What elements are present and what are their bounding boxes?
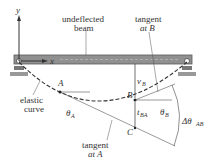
x-axis-label: x [49,56,54,66]
theta-a-subscript: A [70,113,75,119]
tangent-b-label-2: at B [140,23,155,33]
point-b-label: B [127,90,133,100]
delta-theta-arc [172,85,180,146]
point-c-marker [134,127,136,129]
tangent-a-label-2: at A [88,149,103,159]
theta-b-subscript: B [165,112,169,118]
y-axis-label: y [15,5,20,15]
vb-subscript: B [142,81,146,87]
point-a-label: A [57,78,64,88]
point-b-marker [134,99,137,102]
undeflected-beam [14,55,192,64]
point-c-label: C [127,127,134,137]
tangent-a-leader [107,120,112,140]
tba-subscript: BA [140,112,148,118]
vb-label: v [137,76,141,86]
beam-deflection-diagram: y x undeflected beam tangent at B elasti… [0,0,213,162]
diagram-canvas: y x undeflected beam tangent at B elasti… [0,0,213,162]
delta-theta-subscript: AB [195,121,204,127]
elastic-label-2: curve [24,104,44,114]
elastic-leader [33,81,40,95]
delta-theta-label: Δθ [181,116,192,126]
point-a-marker [59,91,62,94]
undeflected-label-2: beam [74,23,94,33]
elastic-curve [19,62,187,101]
